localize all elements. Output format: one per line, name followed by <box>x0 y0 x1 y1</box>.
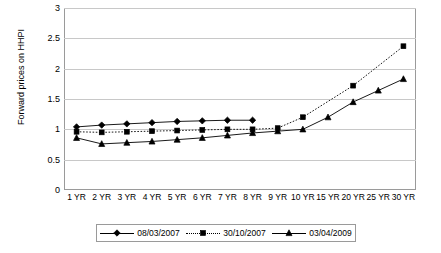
x-axis-tick-label: 25 YR <box>367 192 390 202</box>
y-axis-tick-label: 2 <box>22 64 60 74</box>
legend-label: 08/03/2007 <box>137 228 180 238</box>
x-axis-tick-label: 2 YR <box>92 192 111 202</box>
series-layer <box>64 8 416 190</box>
y-axis-title: Forward prices on HHPI <box>2 0 20 182</box>
legend-item: 08/03/2007 <box>100 228 180 238</box>
legend-item: 30/10/2007 <box>186 228 266 238</box>
x-axis-tick-label: 7 YR <box>218 192 237 202</box>
x-axis-ticks: 1 YR2 YR3 YR4 YR5 YR6 YR7 YR8 YR9 YR10 Y… <box>64 192 416 206</box>
y-axis-tick-label: 0.5 <box>22 155 60 165</box>
x-axis-tick-label: 9 YR <box>268 192 287 202</box>
x-axis-tick-label: 6 YR <box>193 192 212 202</box>
legend-item: 03/04/2009 <box>272 228 352 238</box>
legend: 08/03/200730/10/200703/04/2009 <box>96 224 356 242</box>
x-axis-tick-label: 20 YR <box>341 192 364 202</box>
x-axis-tick-label: 30 YR <box>392 192 415 202</box>
y-axis-tick-label: 2.5 <box>22 33 60 43</box>
legend-label: 03/04/2009 <box>309 228 352 238</box>
legend-label: 30/10/2007 <box>223 228 266 238</box>
x-axis-tick-label: 5 YR <box>168 192 187 202</box>
plot-area <box>64 8 416 190</box>
y-axis-tick-label: 1.5 <box>22 94 60 104</box>
series-03/04/2009 <box>74 76 407 147</box>
x-axis-tick-label: 15 YR <box>316 192 339 202</box>
y-axis-tick-label: 0 <box>22 185 60 195</box>
x-axis-tick-label: 4 YR <box>143 192 162 202</box>
x-axis-tick-label: 10 YR <box>291 192 314 202</box>
y-axis-tick-label: 3 <box>22 3 60 13</box>
x-axis-tick-label: 1 YR <box>67 192 86 202</box>
legend-key-triangle-icon <box>272 228 306 238</box>
chart-container: Forward prices on HHPI 00.511.522.53 1 Y… <box>0 0 441 253</box>
series-30/10/2007 <box>74 44 406 135</box>
x-axis-tick-label: 8 YR <box>243 192 262 202</box>
y-axis-tick-label: 1 <box>22 124 60 134</box>
legend-key-diamond-icon <box>100 228 134 238</box>
x-axis-tick-label: 3 YR <box>117 192 136 202</box>
legend-key-square-icon <box>186 228 220 238</box>
y-axis-ticks: 00.511.522.53 <box>22 8 60 190</box>
